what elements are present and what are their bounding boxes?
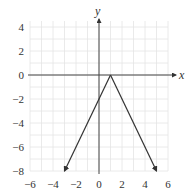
y-axis-label: y (94, 4, 101, 18)
x-tick-label: −6 (24, 178, 36, 190)
x-tick-label: 2 (119, 178, 125, 190)
x-tick-label: 6 (165, 178, 171, 190)
y-tick-label: −8 (12, 165, 24, 177)
axes (28, 19, 176, 174)
tick-labels: −6−4−20246420−2−4−6−8 (12, 21, 171, 190)
y-tick-label: −6 (12, 141, 24, 153)
y-tick-label: 2 (19, 45, 25, 57)
y-tick-label: 0 (19, 69, 25, 81)
x-tick-label: −2 (70, 178, 82, 190)
x-tick-label: 4 (142, 178, 148, 190)
x-tick-label: −4 (47, 178, 59, 190)
x-axis-label: x (178, 68, 185, 82)
y-tick-label: −4 (12, 117, 24, 129)
y-tick-label: −2 (12, 93, 24, 105)
y-tick-label: 4 (19, 21, 25, 33)
x-tick-label: 0 (96, 178, 102, 190)
graph: −6−4−20246420−2−4−6−8 x y (0, 0, 192, 196)
